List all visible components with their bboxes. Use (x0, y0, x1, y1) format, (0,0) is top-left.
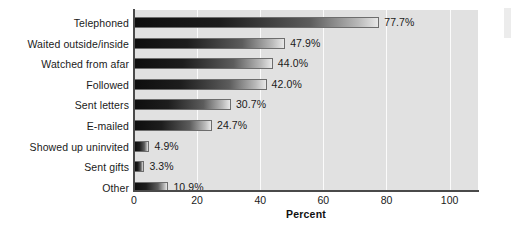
bar-row[interactable]: 4.9% (134, 141, 478, 152)
x-axis-title: Percent (134, 208, 478, 220)
y-axis-line (133, 9, 135, 191)
category-label: Other (0, 183, 129, 194)
category-label: Watched from afar (0, 59, 129, 70)
bar-value-label: 44.0% (278, 57, 308, 69)
bar[interactable] (134, 99, 231, 110)
x-axis-line (133, 190, 479, 192)
bar-row[interactable]: 10.9% (134, 182, 478, 190)
category-label: E-mailed (0, 121, 129, 132)
bar-value-label: 77.7% (384, 16, 414, 28)
bar[interactable] (134, 182, 168, 190)
bar-row[interactable]: 3.3% (134, 161, 478, 172)
x-tick-20: 20 (177, 194, 217, 206)
bar-row[interactable]: 30.7% (134, 99, 478, 110)
bar-row[interactable]: 77.7% (134, 17, 478, 28)
bar-row[interactable]: 47.9% (134, 38, 478, 49)
plot-area: 77.7%47.9%44.0%42.0%30.7%24.7%4.9%3.3%10… (134, 10, 478, 190)
bar[interactable] (134, 120, 212, 131)
bar-row[interactable]: 44.0% (134, 58, 478, 69)
bar-row[interactable]: 24.7% (134, 120, 478, 131)
bar-value-label: 42.0% (272, 78, 302, 90)
x-tick-80: 80 (366, 194, 406, 206)
category-label: Waited outside/inside (0, 39, 129, 50)
bar-chart: TelephonedWaited outside/insideWatched f… (0, 0, 513, 232)
category-label: Telephoned (0, 18, 129, 29)
category-label: Showed up uninvited (0, 142, 129, 153)
x-tick-0: 0 (114, 194, 154, 206)
bar-value-label: 3.3% (149, 160, 173, 172)
bar-row[interactable]: 42.0% (134, 79, 478, 90)
category-label: Sent letters (0, 100, 129, 111)
bar[interactable] (134, 17, 379, 28)
category-axis-labels: TelephonedWaited outside/insideWatched f… (0, 12, 129, 190)
x-tick-100: 100 (430, 194, 470, 206)
bar-value-label: 30.7% (236, 98, 266, 110)
bar-value-label: 4.9% (154, 140, 178, 152)
bar-value-label: 47.9% (290, 37, 320, 49)
category-label: Followed (0, 80, 129, 91)
category-label: Sent gifts (0, 162, 129, 173)
bar[interactable] (134, 79, 267, 90)
bar-value-label: 24.7% (217, 119, 247, 131)
plot-inner: 77.7%47.9%44.0%42.0%30.7%24.7%4.9%3.3%10… (134, 10, 478, 190)
bar[interactable] (134, 38, 285, 49)
edge-artifact (504, 8, 511, 38)
bar[interactable] (134, 58, 273, 69)
x-tick-60: 60 (303, 194, 343, 206)
bar[interactable] (134, 161, 144, 172)
bar[interactable] (134, 141, 149, 152)
x-tick-40: 40 (240, 194, 280, 206)
bar-value-label: 10.9% (173, 181, 203, 190)
